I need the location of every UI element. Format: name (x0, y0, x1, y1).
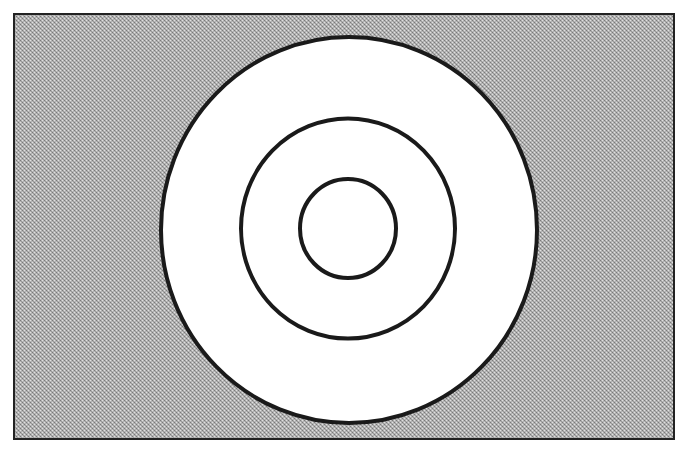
diagram-canvas (0, 0, 688, 449)
concentric-circles-diagram (0, 0, 688, 449)
outer-circle (161, 37, 537, 423)
